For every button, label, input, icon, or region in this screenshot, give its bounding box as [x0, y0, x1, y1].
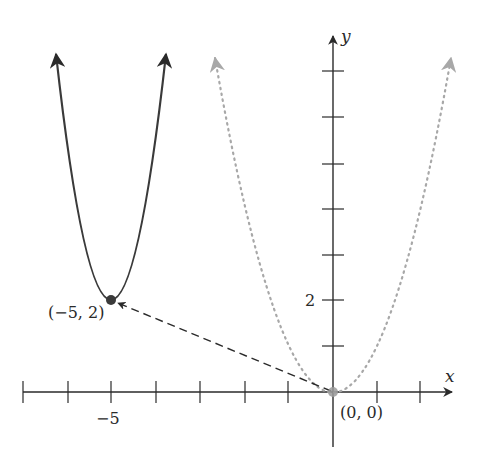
parabola-translation-diagram: x y −5 2 (0, 0) (−5, 2): [0, 0, 480, 467]
y-axis: [322, 36, 344, 447]
x-tick-label: −5: [96, 409, 120, 428]
x-axis: [23, 381, 452, 403]
origin-label: (0, 0): [340, 403, 383, 422]
translation-arrow: [118, 303, 331, 391]
y-axis-label: y: [340, 26, 351, 46]
y-tick-label: 2: [305, 291, 315, 310]
translated-parabola-curve: [56, 54, 166, 300]
origin-point: [328, 387, 338, 397]
vertex-label: (−5, 2): [48, 303, 104, 322]
x-axis-label: x: [445, 366, 455, 386]
vertex-point: [106, 295, 116, 305]
